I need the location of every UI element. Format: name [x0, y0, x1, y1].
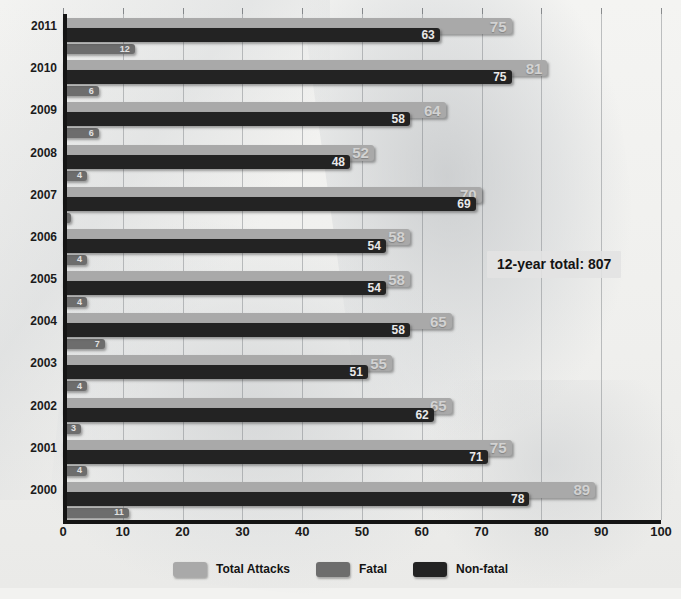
x-axis-tick	[242, 8, 243, 14]
bar-value-label: 4	[77, 171, 87, 180]
bar-non-fatal: 78	[63, 492, 529, 506]
legend-label: Total Attacks	[216, 562, 290, 576]
x-axis-line	[63, 520, 661, 524]
bar-value-label: 4	[77, 298, 87, 307]
bar-value-label: 64	[424, 103, 446, 118]
twelve-year-total-annotation: 12-year total: 807	[487, 251, 621, 278]
bar-value-label: 6	[89, 129, 99, 138]
bar-row: 64658	[63, 102, 661, 140]
x-axis-tick	[422, 8, 423, 14]
bar-row: 751263	[63, 18, 661, 56]
legend-label: Non-fatal	[456, 562, 508, 576]
bar-value-label: 54	[368, 240, 386, 252]
bar-value-label: 58	[388, 272, 410, 287]
bar-value-label: 63	[421, 29, 439, 41]
bar-fatal: 12	[63, 44, 135, 54]
x-axis-labels: 0102030405060708090100	[63, 524, 661, 546]
bar-fatal: 6	[63, 86, 99, 96]
bar-value-label: 54	[368, 282, 386, 294]
bar-non-fatal: 75	[63, 70, 512, 84]
bar-value-label: 52	[352, 145, 374, 160]
bar-value-label: 75	[490, 440, 512, 455]
legend-item[interactable]: Non-fatal	[413, 562, 508, 577]
chart-legend: Total AttacksFatalNon-fatal	[0, 556, 681, 582]
bar-value-label: 3	[71, 424, 81, 433]
x-axis-label-10: 10	[116, 524, 130, 539]
legend-swatch	[316, 562, 350, 577]
bar-non-fatal: 51	[63, 365, 368, 379]
x-axis-label-30: 30	[235, 524, 249, 539]
bar-row: 65758	[63, 313, 661, 351]
y-axis-label-2011: 2011	[31, 19, 57, 33]
bar-value-label: 4	[77, 382, 87, 391]
bar-value-label: 4	[77, 255, 87, 264]
y-axis-label-2002: 2002	[30, 399, 57, 413]
y-axis-label-2006: 2006	[30, 230, 57, 244]
legend-label: Fatal	[359, 562, 387, 576]
y-axis-label-2007: 2007	[30, 188, 57, 202]
x-axis-tick	[362, 8, 363, 14]
bar-row: 75471	[63, 440, 661, 478]
y-axis-label-2001: 2001	[30, 441, 57, 455]
y-axis-label-2010: 2010	[30, 61, 57, 75]
bar-value-label: 6	[89, 87, 99, 96]
x-axis-label-60: 60	[415, 524, 429, 539]
bar-value-label: 62	[415, 409, 433, 421]
x-axis-tick	[482, 8, 483, 14]
bar-value-label: 65	[430, 314, 452, 329]
bar-fatal: 6	[63, 128, 99, 138]
x-axis-label-90: 90	[594, 524, 608, 539]
bar-non-fatal: 63	[63, 28, 440, 42]
bar-row: 65362	[63, 398, 661, 436]
bar-non-fatal: 69	[63, 197, 476, 211]
bar-non-fatal: 58	[63, 323, 410, 337]
bar-value-label: 89	[574, 482, 596, 497]
y-axis-label-2004: 2004	[30, 314, 57, 328]
gridline	[661, 14, 662, 520]
x-axis-tick	[183, 8, 184, 14]
bar-non-fatal: 48	[63, 155, 350, 169]
bar-non-fatal: 58	[63, 112, 410, 126]
bar-non-fatal: 62	[63, 408, 434, 422]
bar-value-label: 58	[391, 113, 409, 125]
bar-value-label: 58	[391, 324, 409, 336]
bar-value-label: 55	[370, 356, 392, 371]
x-axis-tick	[601, 8, 602, 14]
x-axis-label-80: 80	[534, 524, 548, 539]
bar-value-label: 58	[388, 229, 410, 244]
x-axis-label-50: 50	[355, 524, 369, 539]
bar-fatal: 7	[63, 339, 105, 349]
bar-value-label: 71	[469, 451, 487, 463]
legend-item[interactable]: Fatal	[316, 562, 387, 577]
bar-value-label: 7	[95, 340, 105, 349]
x-axis-tick	[302, 8, 303, 14]
x-axis-tick	[541, 8, 542, 14]
bar-value-label: 12	[120, 45, 135, 54]
legend-item[interactable]: Total Attacks	[173, 562, 290, 577]
y-axis-label-2008: 2008	[30, 146, 57, 160]
x-axis-label-20: 20	[175, 524, 189, 539]
bar-value-label: 78	[511, 493, 529, 505]
bar-value-label: 4	[77, 466, 87, 475]
x-axis-label-0: 0	[59, 524, 66, 539]
bar-value-label: 69	[457, 198, 475, 210]
bar-row: 81675	[63, 60, 661, 98]
x-axis-label-100: 100	[650, 524, 672, 539]
bar-row: 55451	[63, 355, 661, 393]
y-axis-line	[63, 14, 67, 520]
bar-non-fatal: 54	[63, 281, 386, 295]
bar-row: 891178	[63, 482, 661, 520]
bar-value-label: 75	[493, 71, 511, 83]
bar-row: 70169	[63, 187, 661, 225]
y-axis-labels: 2011201020092008200720062005200420032002…	[0, 14, 57, 520]
legend-swatch	[413, 562, 447, 577]
y-axis-label-2000: 2000	[30, 483, 57, 497]
x-axis-tick	[123, 8, 124, 14]
y-axis-label-2003: 2003	[30, 356, 57, 370]
bar-value-label: 75	[490, 19, 512, 34]
bar-value-label: 48	[332, 156, 350, 168]
bar-value-label: 11	[114, 508, 129, 517]
x-axis-label-70: 70	[474, 524, 488, 539]
x-axis-tick	[661, 8, 662, 14]
